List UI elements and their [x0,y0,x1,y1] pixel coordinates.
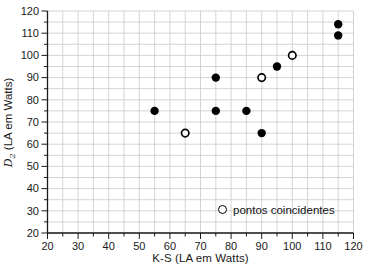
x-tick-label: 120 [344,240,362,252]
y-tick-label: 110 [21,27,39,39]
y-axis-variable: D [2,158,15,167]
scatter-point-filled [212,73,220,81]
x-axis-title: K-S (LA em Watts) [47,252,354,264]
scatter-point-filled [334,31,342,39]
y-axis-title: D2 (LA em Watts) [2,53,17,193]
scatter-point-open [289,52,296,59]
y-tick-label: 90 [27,71,39,83]
grid [48,11,354,233]
y-tick-label: 120 [21,5,39,17]
y-tick-label: 50 [27,160,39,172]
x-tick-label: 70 [194,240,206,252]
plot-canvas: 2030405060708090100110120203040506070809… [0,0,368,274]
y-tick-label: 80 [27,94,39,106]
x-tick-label: 20 [41,240,53,252]
x-tick-label: 90 [256,240,268,252]
scatter-point-filled [273,62,281,70]
x-tick-label: 40 [103,240,115,252]
x-tick-label: 100 [283,240,301,252]
y-axis-unit-text: (LA em Watts) [2,78,14,154]
y-tick-label: 40 [27,182,39,194]
y-tick-label: 60 [27,138,39,150]
x-tick-label: 30 [72,240,84,252]
scatter-point-filled [334,20,342,28]
scatter-point-open [258,74,265,81]
scatter-chart: 2030405060708090100110120203040506070809… [0,0,368,274]
y-tick-label: 100 [21,49,39,61]
y-tick-label: 30 [27,205,39,217]
open-circle-icon [218,205,227,214]
scatter-point-filled [242,107,250,115]
scatter-point-open [182,129,189,136]
y-tick-label: 20 [27,227,39,239]
scatter-point-filled [150,107,158,115]
scatter-point-filled [212,107,220,115]
x-tick-label: 80 [225,240,237,252]
scatter-point-filled [258,129,266,137]
y-tick-label: 70 [27,116,39,128]
x-tick-label: 60 [164,240,176,252]
legend: pontos coincidentes [218,202,335,217]
y-axis-variable-subscript: 2 [8,153,17,158]
x-tick-label: 110 [314,240,332,252]
legend-label: pontos coincidentes [233,204,335,216]
x-tick-label: 50 [133,240,145,252]
